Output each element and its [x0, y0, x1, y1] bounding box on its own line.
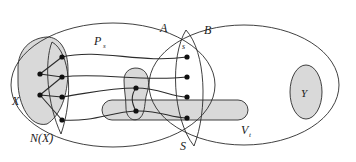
label-set-a: A: [159, 21, 168, 35]
vertex-s: [184, 54, 189, 59]
label-set-x: X: [11, 94, 20, 108]
set-diagram-svg: A B X N(X) S Y s P s V t: [0, 0, 356, 162]
vertex-right-1: [184, 74, 189, 79]
vertex-mid-0: [133, 85, 138, 90]
vertex-x-1: [37, 92, 42, 97]
vertex-right-3: [184, 115, 189, 120]
label-path-ps-base: P: [93, 34, 102, 48]
label-vertex-s: s: [182, 42, 185, 51]
label-set-nx: N(X): [29, 131, 53, 145]
figure-canvas: A B X N(X) S Y s P s V t: [0, 0, 356, 162]
vertex-right-2: [184, 94, 189, 99]
label-set-vt: V t: [241, 123, 252, 139]
vertex-nx-2: [59, 94, 64, 99]
label-path-ps-subscript: s: [103, 42, 106, 50]
vertex-nx-3: [59, 117, 64, 122]
vertex-x-0: [37, 71, 42, 76]
vertex-nx-0: [59, 54, 64, 59]
label-path-ps: P s: [93, 34, 106, 50]
edge-path-ps: [62, 54, 187, 59]
label-set-b: B: [204, 23, 212, 37]
label-set-s: S: [180, 139, 186, 153]
vertex-nx-1: [59, 74, 64, 79]
vertex-mid-1: [133, 108, 138, 113]
region-s-outline: [176, 30, 204, 146]
label-set-vt-subscript: t: [249, 131, 252, 139]
